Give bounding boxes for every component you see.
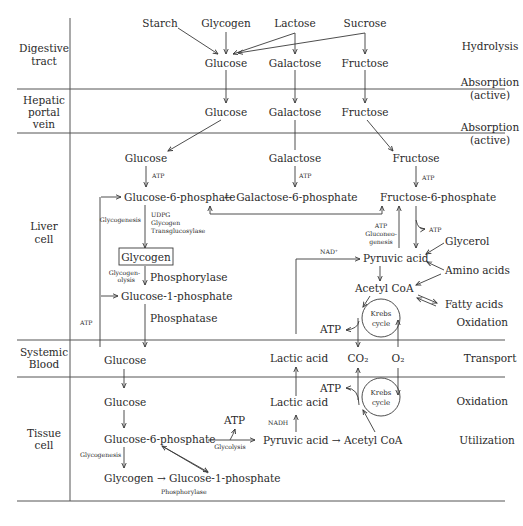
node-galactose-6-phosphate: ← Galactose-6-phosphate xyxy=(224,191,358,203)
label-atp-galactose: ATP xyxy=(298,172,311,179)
node-glucose-liver: Glucose xyxy=(125,152,167,164)
node-fructose-gut: Fructose xyxy=(341,57,388,69)
krebs-cycle-tissue xyxy=(362,378,400,416)
label-glycogenesis-tissue: Glycogenesis xyxy=(80,451,121,459)
node-glucose-portal: Glucose xyxy=(205,106,247,118)
label-glycogenolysis-2: olysis xyxy=(117,276,135,284)
node-acetyl-coa-liver: Acetyl CoA xyxy=(354,282,414,294)
label-krebs-tissue-2: cycle xyxy=(372,399,390,407)
node-glucose-6-phosphate-liver: Glucose-6-phosphate xyxy=(124,191,235,203)
row-label-hepatic-3: vein xyxy=(32,118,56,130)
node-fructose-portal: Fructose xyxy=(341,106,388,118)
label-atp-gluconeo: ATP xyxy=(374,222,387,229)
label-krebs-liver: Krebs xyxy=(371,310,392,318)
row-label-hepatic-2: portal xyxy=(28,106,61,118)
label-nad-plus: NAD⁺ xyxy=(320,248,338,255)
label-atp-fructose: ATP xyxy=(421,174,434,181)
node-lactose: Lactose xyxy=(274,17,315,29)
node-lactic-acid-tissue: Lactic acid xyxy=(270,396,328,408)
process-oxidation-tissue: Oxidation xyxy=(456,395,508,407)
row-label-blood: Systemic xyxy=(20,346,68,358)
node-glycogen-diet: Glycogen xyxy=(201,17,251,29)
node-glucose-6-phosphate-tissue: Glucose-6-phosphate xyxy=(104,433,215,445)
process-transport: Transport xyxy=(464,352,517,364)
node-glycogen-g1p-tissue: Glycogen → Glucose-1-phosphate xyxy=(104,472,281,484)
node-glucose-1-phosphate-liver: Glucose-1-phosphate xyxy=(121,290,232,302)
grid-lines xyxy=(17,18,505,501)
hepatic-section: Glucose Galactose Fructose xyxy=(168,106,393,151)
label-atp-krebs-liver: ATP xyxy=(319,323,341,335)
row-label-blood-2: Blood xyxy=(29,358,60,370)
node-glycerol: Glycerol xyxy=(445,235,490,247)
node-amino-acids: Amino acids xyxy=(444,264,510,276)
label-atp-glycolysis: ATP xyxy=(223,414,245,426)
node-glucose-tissue: Glucose xyxy=(104,396,146,408)
label-atp-out: ATP xyxy=(428,226,441,233)
label-atp-krebs-tissue: ATP xyxy=(319,382,341,394)
process-absorption-1: Absorption xyxy=(460,76,520,88)
row-label-tissue: Tissue xyxy=(27,427,61,439)
process-absorption-1b: (active) xyxy=(470,89,510,101)
label-enzyme-udpg: UDPG xyxy=(151,211,170,218)
process-absorption-2b: (active) xyxy=(470,134,510,146)
row-label-digestive: Digestive xyxy=(19,42,69,54)
node-galactose-gut: Galactose xyxy=(269,57,321,69)
label-atp-glucose: ATP xyxy=(151,172,164,179)
label-atp-left: ATP xyxy=(79,319,92,326)
row-label-liver: Liver xyxy=(30,220,58,232)
liver-section: Glucose Galactose Fructose ATP ATP ATP G… xyxy=(79,152,510,347)
blood-section: Glucose Lactic acid CO₂ O₂ xyxy=(104,352,404,388)
label-glycolysis: Glycolysis xyxy=(214,443,245,451)
node-co2-blood: CO₂ xyxy=(348,352,369,364)
label-phosphorylase-tissue: Phosphorylase xyxy=(161,488,207,496)
label-phosphorylase-liver: Phosphorylase xyxy=(150,271,228,283)
node-starch: Starch xyxy=(142,17,178,29)
node-glucose-blood: Glucose xyxy=(104,354,146,366)
label-enzyme-transglucosylase: Transglucosylase xyxy=(151,227,206,235)
row-label-liver-2: cell xyxy=(35,233,54,245)
node-galactose-liver: Galactose xyxy=(269,152,321,164)
digestive-section: Starch Glycogen Lactose Sucrose Glucose … xyxy=(142,17,388,103)
node-pyruvic-acetyl-tissue: Pyruvic acid → Acetyl CoA xyxy=(263,434,403,446)
process-oxidation-liver: Oxidation xyxy=(456,316,508,328)
process-hydrolysis: Hydrolysis xyxy=(462,40,519,52)
row-label-hepatic: Hepatic xyxy=(23,94,65,106)
process-utilization: Utilization xyxy=(459,434,515,446)
label-nadh: NADH xyxy=(268,419,289,426)
node-fructose-6-phosphate: Fructose-6-phosphate xyxy=(380,191,496,203)
node-o2-blood: O₂ xyxy=(392,352,405,364)
node-galactose-portal: Galactose xyxy=(269,106,321,118)
label-enzyme-glycogen: Glycogen xyxy=(151,219,180,227)
krebs-cycle-liver xyxy=(362,299,400,337)
node-glucose-gut: Glucose xyxy=(205,57,247,69)
label-gluconeogenesis: Gluconeo- xyxy=(365,230,397,237)
label-glycogenesis-liver: Glycogenesis xyxy=(100,216,141,224)
label-phosphatase: Phosphatase xyxy=(150,312,217,324)
row-label-tissue-2: cell xyxy=(35,439,54,451)
node-sucrose: Sucrose xyxy=(344,17,387,29)
node-glycogen-liver: Glycogen xyxy=(121,251,171,263)
label-krebs-tissue: Krebs xyxy=(371,389,392,397)
row-labels: Digestive tract Hepatic portal vein Live… xyxy=(19,42,69,451)
label-gluconeogenesis-2: genesis xyxy=(369,238,393,246)
label-krebs-liver-2: cycle xyxy=(372,320,390,328)
node-pyruvic-acid-liver: Pyruvic acid xyxy=(363,252,429,264)
process-absorption-2: Absorption xyxy=(460,121,520,133)
node-lactic-acid-blood: Lactic acid xyxy=(270,352,328,364)
row-label-digestive-2: tract xyxy=(31,55,57,67)
node-fatty-acids: Fatty acids xyxy=(445,298,503,310)
tissue-section: Glucose Glucose-6-phosphate ATP Glycolys… xyxy=(80,367,403,496)
metabolism-diagram: Digestive tract Hepatic portal vein Live… xyxy=(0,0,523,526)
node-fructose-liver: Fructose xyxy=(392,152,439,164)
